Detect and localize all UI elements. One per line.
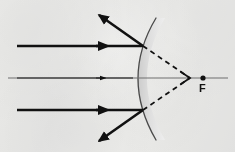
focal-point-dot: [200, 75, 205, 80]
reflected-ray-upper: [99, 15, 143, 46]
reflected-ray-lower: [99, 110, 143, 141]
mirror-backing-band: [138, 18, 165, 140]
focal-point-label: F: [199, 83, 206, 94]
convex-mirror-diagram: [0, 0, 235, 152]
ray-diagram-scene: F: [0, 0, 235, 152]
